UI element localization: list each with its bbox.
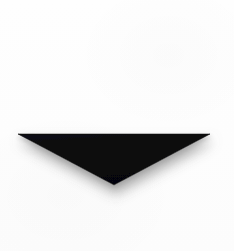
triangle-figure-svg xyxy=(0,0,234,251)
figure-layer xyxy=(0,0,234,251)
triangle-shape xyxy=(18,134,210,185)
triangle-shadow-group xyxy=(18,134,210,185)
image-canvas xyxy=(0,0,234,251)
